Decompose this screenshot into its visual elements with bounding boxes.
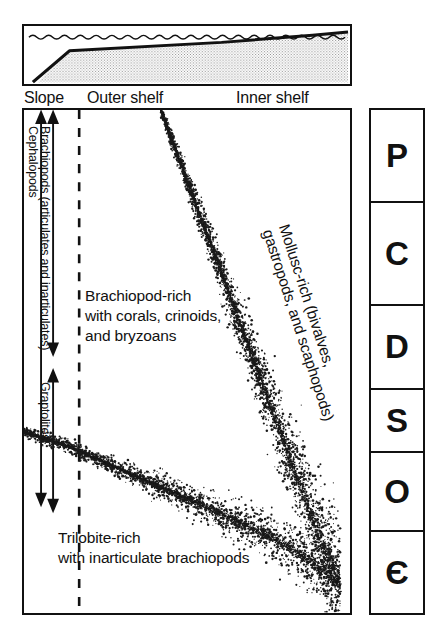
facies-label-brachiopod-line1: Brachiopod-rich: [85, 286, 221, 306]
period-cell-permian[interactable]: P: [371, 110, 423, 203]
cross-section-drawing: [24, 26, 350, 84]
facies-label-brachiopod-line3: and bryzoans: [85, 326, 221, 346]
range-label-brachiopods: Brachiopods (articulates and inarticulat…: [39, 126, 52, 350]
zone-label-outer-shelf: Outer shelf: [87, 90, 163, 106]
facies-label-brachiopod: Brachiopod-rich with corals, crinoids, a…: [85, 286, 221, 346]
sediment-fill: [26, 33, 348, 83]
figure-canvas: Slope Outer shelf Inner shelf: [0, 0, 430, 643]
facies-label-trilobite-line1: Trilobite-rich: [58, 528, 249, 548]
stipple-band-trilobite-boundary: [24, 427, 341, 613]
zone-label-slope: Slope: [24, 90, 64, 106]
period-cell-devonian[interactable]: D: [371, 306, 423, 389]
period-symbol: D: [385, 330, 409, 363]
period-symbol: Є: [385, 556, 408, 589]
period-cell-silurian[interactable]: S: [371, 390, 423, 454]
range-label-graptolites: Graptolites: [39, 382, 52, 440]
facies-label-trilobite: Trilobite-rich with inarticulate brachio…: [58, 528, 249, 568]
period-symbol: O: [384, 475, 410, 508]
cross-section-panel: [22, 24, 352, 86]
period-symbol: P: [386, 139, 408, 172]
period-symbol: S: [386, 404, 408, 437]
period-column: PCDSOЄ: [369, 108, 425, 615]
period-symbol: C: [385, 237, 409, 270]
period-cell-carboniferous[interactable]: C: [371, 203, 423, 306]
range-label-cephalopods: Cephalopods: [27, 126, 40, 197]
period-cell-cambrian[interactable]: Є: [371, 532, 423, 613]
period-cell-ordovician[interactable]: O: [371, 453, 423, 531]
facies-label-trilobite-line2: with inarticulate brachiopods: [58, 548, 249, 568]
zone-label-inner-shelf: Inner shelf: [236, 90, 309, 106]
facies-label-brachiopod-line2: with corals, crinoids,: [85, 306, 221, 326]
